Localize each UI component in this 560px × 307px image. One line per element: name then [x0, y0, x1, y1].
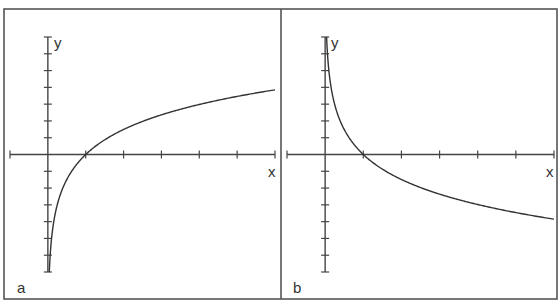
- curve-b: [327, 37, 554, 219]
- x-axis-label-b: x: [546, 163, 554, 180]
- y-axis-label-a: y: [54, 34, 62, 51]
- curve-a: [49, 90, 275, 272]
- panel-label-a: a: [17, 279, 26, 296]
- panel-b: y x b: [287, 34, 554, 296]
- panel-label-b: b: [293, 279, 301, 296]
- y-axis-label-b: y: [331, 34, 339, 51]
- panel-a: y x a: [10, 34, 276, 296]
- x-axis-label-a: x: [268, 163, 276, 180]
- figure: y x a y x b: [0, 0, 560, 307]
